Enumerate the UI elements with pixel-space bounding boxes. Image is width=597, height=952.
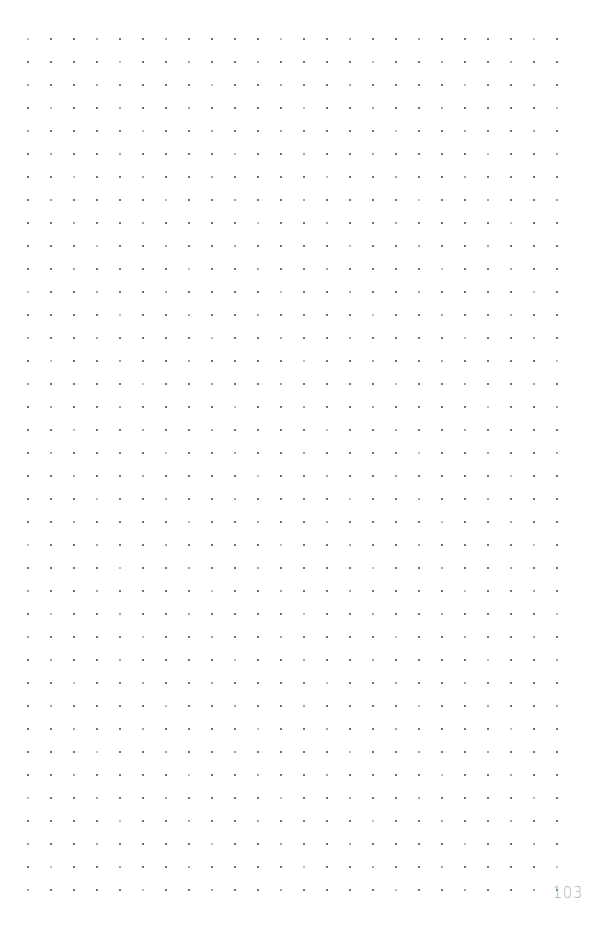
- dot-grid-dot: [27, 498, 29, 500]
- dot-grid-dot: [441, 728, 443, 730]
- dot-grid-dot: [487, 268, 489, 270]
- dot-grid-dot: [533, 107, 535, 109]
- dot-grid-dot: [280, 866, 282, 868]
- dot-grid-dot: [165, 383, 167, 385]
- dot-grid-dot: [441, 452, 443, 454]
- dot-grid-dot: [96, 84, 98, 86]
- dot-grid-dot: [257, 613, 259, 615]
- dot-grid-dot: [303, 866, 305, 868]
- dot-grid-dot: [349, 866, 351, 868]
- dot-grid-dot: [234, 199, 236, 201]
- dot-grid-dot: [211, 544, 213, 546]
- dot-grid-dot: [533, 176, 535, 178]
- dot-grid-dot: [372, 889, 374, 891]
- dot-grid-dot: [234, 636, 236, 638]
- dot-grid-dot: [280, 728, 282, 730]
- dot-grid-dot: [50, 751, 52, 753]
- dot-grid-dot: [303, 429, 305, 431]
- dot-grid-dot: [119, 314, 121, 316]
- dot-grid-dot: [303, 774, 305, 776]
- dot-grid-dot: [50, 360, 52, 362]
- dot-grid-dot: [326, 682, 328, 684]
- dot-grid-dot: [556, 130, 558, 132]
- dot-grid-dot: [510, 659, 512, 661]
- dot-grid-dot: [441, 291, 443, 293]
- dot-grid-dot: [441, 521, 443, 523]
- dot-grid-dot: [73, 498, 75, 500]
- dot-grid-dot: [418, 199, 420, 201]
- dot-grid-dot: [119, 498, 121, 500]
- dot-grid-dot: [372, 199, 374, 201]
- dot-grid-dot: [395, 521, 397, 523]
- dot-grid-dot: [142, 544, 144, 546]
- dot-grid-dot: [326, 406, 328, 408]
- dot-grid-dot: [556, 176, 558, 178]
- dot-grid-dot: [326, 843, 328, 845]
- dot-grid-dot: [533, 659, 535, 661]
- dot-grid-dot: [119, 245, 121, 247]
- dot-grid-dot: [487, 222, 489, 224]
- page-number: 103: [553, 886, 583, 901]
- dot-grid-dot: [257, 889, 259, 891]
- dot-grid-dot: [533, 751, 535, 753]
- dot-grid-dot: [96, 866, 98, 868]
- dot-grid-dot: [464, 38, 466, 40]
- dot-grid-dot: [211, 268, 213, 270]
- dot-grid-dot: [533, 728, 535, 730]
- dot-grid-dot: [303, 728, 305, 730]
- dot-grid-dot: [27, 406, 29, 408]
- dot-grid-dot: [211, 337, 213, 339]
- dot-grid-dot: [211, 291, 213, 293]
- dot-grid-dot: [464, 636, 466, 638]
- dot-grid-dot: [556, 84, 558, 86]
- dot-grid-dot: [395, 176, 397, 178]
- dot-grid-dot: [73, 751, 75, 753]
- dot-grid-dot: [50, 291, 52, 293]
- dot-grid-dot: [349, 452, 351, 454]
- dot-grid-dot: [464, 475, 466, 477]
- dot-grid-dot: [533, 682, 535, 684]
- dot-grid-dot: [50, 38, 52, 40]
- dot-grid-dot: [142, 797, 144, 799]
- dot-grid-dot: [372, 61, 374, 63]
- dot-grid-dot: [418, 659, 420, 661]
- dot-grid-dot: [280, 498, 282, 500]
- dot-grid-dot: [441, 107, 443, 109]
- dot-grid-dot: [211, 567, 213, 569]
- dot-grid-dot: [464, 61, 466, 63]
- dot-grid-dot: [188, 314, 190, 316]
- dot-grid-dot: [234, 360, 236, 362]
- dot-grid-dot: [303, 452, 305, 454]
- dot-grid-dot: [73, 705, 75, 707]
- dot-grid-dot: [165, 544, 167, 546]
- dot-grid-dot: [441, 498, 443, 500]
- dot-grid-dot: [464, 222, 466, 224]
- dot-grid-dot: [142, 406, 144, 408]
- dot-grid-dot: [280, 751, 282, 753]
- dot-grid-dot: [487, 452, 489, 454]
- dot-grid-dot: [510, 866, 512, 868]
- dot-grid-dot: [280, 797, 282, 799]
- dot-grid-dot: [326, 61, 328, 63]
- dot-grid-dot: [303, 521, 305, 523]
- dot-grid-dot: [487, 291, 489, 293]
- dot-grid-dot: [280, 567, 282, 569]
- dot-grid-dot: [96, 728, 98, 730]
- dot-grid-dot: [119, 751, 121, 753]
- dot-grid-dot: [303, 498, 305, 500]
- dot-grid-dot: [418, 797, 420, 799]
- dot-grid-dot: [188, 268, 190, 270]
- dot-grid-dot: [556, 521, 558, 523]
- dot-grid-dot: [73, 866, 75, 868]
- dot-grid-dot: [556, 406, 558, 408]
- dot-grid-dot: [487, 107, 489, 109]
- dot-grid-dot: [326, 521, 328, 523]
- dot-grid-dot: [556, 153, 558, 155]
- dot-grid-dot: [510, 498, 512, 500]
- dot-grid-dot: [349, 176, 351, 178]
- dot-grid-dot: [188, 61, 190, 63]
- dot-grid-dot: [188, 199, 190, 201]
- dot-grid-dot: [280, 222, 282, 224]
- dot-grid-dot: [441, 38, 443, 40]
- dot-grid-dot: [142, 751, 144, 753]
